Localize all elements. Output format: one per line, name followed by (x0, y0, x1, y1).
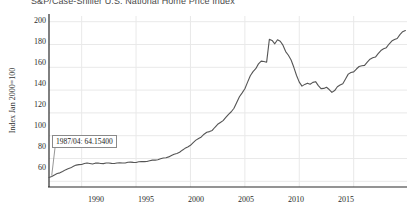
plot-area (0, 0, 411, 216)
chart-container: S&P/Case-Shiller U.S. National Home Pric… (0, 0, 411, 216)
annotation-date: 1987/04 (56, 137, 81, 146)
annotation-value: 64.15400 (85, 137, 113, 146)
gridlines (49, 16, 407, 187)
annotation-separator: : (81, 137, 83, 146)
axis-lines (48, 14, 407, 187)
annotation-label[interactable]: 1987/04: 64.15400 (52, 135, 117, 148)
annotation-pointer (52, 146, 56, 176)
series-line (49, 30, 405, 177)
